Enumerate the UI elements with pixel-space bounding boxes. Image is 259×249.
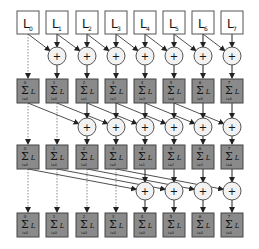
- sigma-icon: Σ: [196, 150, 204, 163]
- sum-variable: L: [118, 88, 124, 96]
- input-node-L6: L6: [192, 11, 214, 34]
- input-subscript: 0: [29, 25, 33, 32]
- sum-lower-bound: i=0: [110, 163, 116, 167]
- sum-variable: L: [89, 88, 95, 96]
- sum-lower-bound: i=0: [81, 163, 87, 167]
- sigma-icon: Σ: [225, 218, 233, 231]
- plus-node: +: [194, 47, 212, 65]
- sum-variable: L: [176, 88, 182, 96]
- plus-node: +: [165, 118, 183, 136]
- sigma-icon: Σ: [21, 84, 29, 97]
- sum-lower-bound: i=2: [110, 97, 116, 101]
- plus-icon: +: [83, 122, 91, 133]
- sum-node-stage2-col3: 3Σi=0L: [105, 145, 127, 169]
- sum-variable: L: [89, 222, 95, 230]
- sigma-icon: Σ: [225, 150, 233, 163]
- input-subscript: 5: [175, 25, 179, 32]
- plus-icon: +: [170, 122, 178, 133]
- diagonal-edge: [28, 34, 50, 51]
- sum-lower-bound: i=0: [110, 231, 116, 235]
- sum-variable: L: [205, 88, 211, 96]
- sum-node-stage3-col4: 4Σi=0L: [134, 213, 156, 237]
- sum-node-stage2-col7: 7Σi=4L: [221, 145, 243, 169]
- sigma-icon: Σ: [80, 84, 88, 97]
- plus-node: +: [194, 182, 212, 200]
- sigma-icon: Σ: [80, 218, 88, 231]
- sum-variable: L: [176, 154, 182, 162]
- plus-node: +: [194, 118, 212, 136]
- sigma-icon: Σ: [80, 150, 88, 163]
- sum-lower-bound: i=1: [81, 97, 87, 101]
- plus-node: +: [78, 118, 96, 136]
- plus-node: +: [165, 47, 183, 65]
- sum-lower-bound: i=0: [22, 163, 28, 167]
- plus-icon: +: [228, 122, 236, 133]
- plus-icon: +: [170, 51, 178, 62]
- plus-icon: +: [199, 186, 207, 197]
- sum-lower-bound: i=0: [51, 163, 57, 167]
- sum-variable: L: [118, 222, 124, 230]
- sum-node-stage1-col0: 0Σi=0L: [17, 79, 39, 103]
- sum-variable: L: [30, 154, 36, 162]
- plus-icon: +: [53, 51, 61, 62]
- sigma-icon: Σ: [138, 150, 146, 163]
- sum-node-stage2-col6: 6Σi=3L: [192, 145, 214, 169]
- sum-node-stage1-col7: 7Σi=6L: [221, 79, 243, 103]
- sigma-icon: Σ: [196, 218, 204, 231]
- plus-node: +: [136, 182, 154, 200]
- input-subscript: 6: [204, 25, 208, 32]
- sum-lower-bound: i=2: [168, 163, 174, 167]
- sigma-icon: Σ: [138, 218, 146, 231]
- input-node-L0: L0: [17, 11, 39, 34]
- plus-node: +: [107, 47, 125, 65]
- sum-lower-bound: i=0: [81, 231, 87, 235]
- sum-lower-bound: i=0: [197, 231, 203, 235]
- sum-node-stage3-col0: 0Σi=0L: [17, 213, 39, 237]
- sum-node-stage1-col6: 6Σi=5L: [192, 79, 214, 103]
- sum-lower-bound: i=0: [168, 231, 174, 235]
- sum-lower-bound: i=0: [22, 231, 28, 235]
- plus-node: +: [136, 47, 154, 65]
- plus-icon: +: [141, 51, 149, 62]
- sum-node-stage2-col2: 2Σi=0L: [76, 145, 98, 169]
- sum-lower-bound: i=4: [226, 163, 233, 167]
- plus-icon: +: [170, 186, 178, 197]
- plus-node: +: [48, 47, 66, 65]
- sum-node-stage2-col1: 1Σi=0L: [46, 145, 68, 169]
- sigma-icon: Σ: [167, 218, 175, 231]
- sum-variable: L: [59, 88, 65, 96]
- input-subscript: 7: [233, 25, 237, 32]
- plus-icon: +: [228, 186, 236, 197]
- sum-lower-bound: i=0: [22, 97, 28, 101]
- sum-node-stage2-col0: 0Σi=0L: [17, 145, 39, 169]
- sum-node-stage1-col3: 3Σi=2L: [105, 79, 127, 103]
- plus-icon: +: [228, 51, 236, 62]
- sigma-icon: Σ: [109, 150, 117, 163]
- sum-variable: L: [30, 88, 36, 96]
- input-subscript: 3: [117, 25, 121, 32]
- prefix-sum-diagram: L0L1L2L3L4L5L6L70Σi=0L+1Σi=0L+2Σi=1L+3Σi…: [0, 0, 259, 249]
- sum-node-stage1-col1: 1Σi=0L: [46, 79, 68, 103]
- input-subscript: 1: [58, 25, 62, 32]
- input-node-L5: L5: [163, 11, 185, 34]
- sum-node-stage3-col5: 5Σi=0L: [163, 213, 185, 237]
- sigma-icon: Σ: [225, 84, 233, 97]
- sum-variable: L: [118, 154, 124, 162]
- sum-variable: L: [59, 154, 65, 162]
- sigma-icon: Σ: [167, 150, 175, 163]
- sum-node-stage2-col5: 5Σi=2L: [163, 145, 185, 169]
- input-node-L2: L2: [76, 11, 98, 34]
- plus-node: +: [223, 118, 241, 136]
- sum-node-stage3-col1: 1Σi=0L: [46, 213, 68, 237]
- sum-variable: L: [147, 88, 153, 96]
- sigma-icon: Σ: [21, 150, 29, 163]
- sum-variable: L: [30, 222, 36, 230]
- sum-node-stage2-col4: 4Σi=1L: [134, 145, 156, 169]
- plus-icon: +: [83, 51, 91, 62]
- sum-lower-bound: i=0: [226, 231, 232, 235]
- plus-icon: +: [112, 122, 120, 133]
- sigma-icon: Σ: [21, 218, 29, 231]
- sum-lower-bound: i=4: [168, 97, 175, 101]
- sum-node-stage3-col3: 3Σi=0L: [105, 213, 127, 237]
- sum-lower-bound: i=0: [51, 97, 57, 101]
